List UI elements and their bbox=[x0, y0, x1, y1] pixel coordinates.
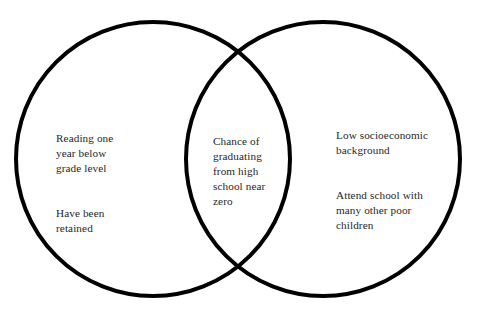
right-set-text-block: Low socioeconomic background Attend scho… bbox=[336, 113, 460, 248]
intersection-set-paragraph-1: Chance of graduating from high school ne… bbox=[213, 134, 281, 209]
venn-diagram-figure: Reading one year below grade level Have … bbox=[0, 0, 488, 317]
right-set-paragraph-1: Low socioeconomic background bbox=[336, 128, 460, 158]
left-set-paragraph-1: Reading one year below grade level bbox=[56, 131, 168, 176]
intersection-set-text-block: Chance of graduating from high school ne… bbox=[213, 119, 281, 224]
left-set-paragraph-2: Have been retained bbox=[56, 206, 168, 236]
right-set-paragraph-2: Attend school with many other poor child… bbox=[336, 188, 460, 233]
left-set-text-block: Reading one year below grade level Have … bbox=[56, 116, 168, 251]
